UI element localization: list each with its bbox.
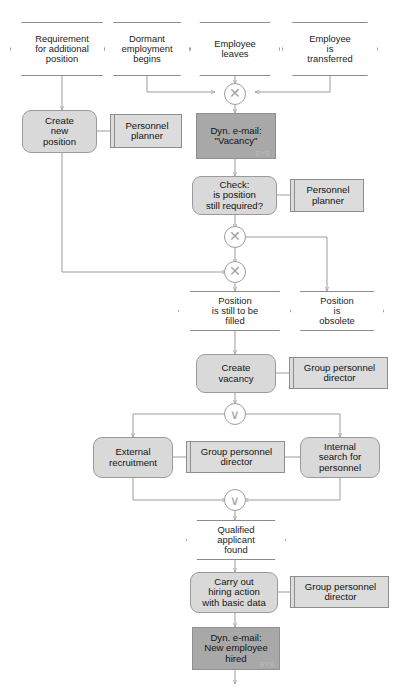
- orgunit-label: Personnel planner: [306, 185, 349, 205]
- orgunit-group-personnel-director-hiring[interactable]: Group personnel director: [290, 576, 389, 608]
- function-label: Check: is position still required?: [206, 180, 263, 210]
- orgunit-label: Group personnel director: [305, 582, 376, 602]
- function-label: Create vacancy: [218, 363, 253, 383]
- event-qualified-applicant-found[interactable]: Qualified applicant found: [186, 520, 286, 560]
- event-employee-leaves[interactable]: Employee leaves: [190, 22, 280, 76]
- event-employee-is-transferred[interactable]: Employee is transferred: [282, 22, 378, 76]
- connector-xor-merge-position-paths[interactable]: ✕: [224, 261, 246, 283]
- function-check-is-position-still-required[interactable]: Check: is position still required?: [192, 176, 277, 215]
- connector-xor-split-position-check[interactable]: ✕: [224, 226, 246, 248]
- system-label: Dyn. e-mail: "Vacancy": [210, 126, 261, 146]
- connector-or-join-recruitment[interactable]: ∨: [224, 489, 246, 511]
- event-label: Requirement for additional position: [35, 34, 89, 64]
- epc-diagram-canvas: Requirement for additional position Dorm…: [0, 0, 408, 691]
- event-label: Employee is transferred: [307, 34, 352, 64]
- function-label: Create new position: [43, 116, 76, 146]
- event-dormant-employment-begins[interactable]: Dormant employment begins: [104, 22, 190, 76]
- event-label: Dormant employment begins: [121, 34, 172, 64]
- event-label: Qualified applicant found: [217, 525, 255, 555]
- xor-icon: ✕: [225, 227, 245, 247]
- event-label: Position is obsolete: [319, 296, 354, 326]
- orgunit-group-personnel-director-recruitment[interactable]: Group personnel director: [186, 441, 285, 473]
- function-internal-search-for-personnel[interactable]: Internal search for personnel: [300, 437, 380, 478]
- system-dyn-email-vacancy[interactable]: Dyn. e-mail: "Vacancy" SYS: [196, 113, 276, 159]
- function-label: Carry out hiring action with basic data: [202, 577, 265, 607]
- event-label: Employee leaves: [214, 39, 256, 59]
- event-position-is-still-to-be-filled[interactable]: Position is still to be filled: [178, 291, 292, 331]
- event-label: Position is still to be filled: [212, 296, 258, 326]
- system-label: Dyn. e-mail: New employee hired: [204, 633, 267, 663]
- connector-or-split-recruitment[interactable]: ∨: [224, 403, 246, 425]
- function-carry-out-hiring-action[interactable]: Carry out hiring action with basic data: [190, 572, 278, 613]
- function-label: External recruitment: [109, 447, 157, 467]
- sys-tag-label: SYS: [259, 661, 274, 668]
- orgunit-group-personnel-director-create-vacancy[interactable]: Group personnel director: [289, 357, 388, 389]
- orgunit-label: Personnel planner: [125, 121, 168, 141]
- xor-icon: ✕: [225, 262, 245, 282]
- orgunit-label: Group personnel director: [304, 363, 375, 383]
- or-icon: ∨: [225, 490, 245, 510]
- orgunit-label: Group personnel director: [201, 447, 272, 467]
- function-label: Internal search for personnel: [319, 442, 362, 472]
- orgunit-personnel-planner-check-position[interactable]: Personnel planner: [290, 179, 364, 212]
- sys-tag-label: SYS: [255, 150, 270, 157]
- orgunit-personnel-planner-create-position[interactable]: Personnel planner: [110, 114, 182, 148]
- connector-xor-merge-triggers[interactable]: ✕: [224, 83, 246, 105]
- system-dyn-email-new-employee-hired[interactable]: Dyn. e-mail: New employee hired SYS: [192, 627, 280, 670]
- event-position-is-obsolete[interactable]: Position is obsolete: [290, 291, 384, 331]
- function-external-recruitment[interactable]: External recruitment: [93, 437, 173, 478]
- xor-icon: ✕: [225, 84, 245, 104]
- event-requirement-for-additional-position[interactable]: Requirement for additional position: [10, 22, 114, 76]
- or-icon: ∨: [225, 404, 245, 424]
- function-create-vacancy[interactable]: Create vacancy: [196, 354, 276, 393]
- function-create-new-position[interactable]: Create new position: [22, 110, 97, 153]
